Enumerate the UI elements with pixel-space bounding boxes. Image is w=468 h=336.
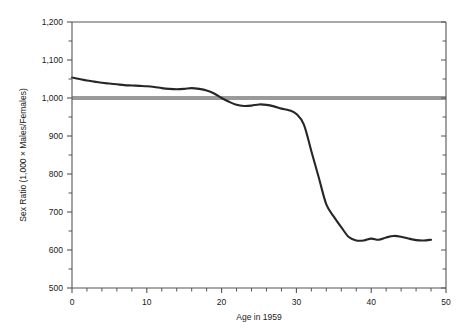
x-tick-label-40: 40 [366, 297, 376, 307]
x-tick-label-10: 10 [142, 297, 152, 307]
y-tick-label-800: 800 [49, 169, 63, 179]
figure-container: 5006007008009001,0001,1001,2000102030405… [0, 0, 468, 336]
y-tick-label-1100: 1,100 [42, 55, 64, 65]
y-tick-label-1000: 1,000 [42, 93, 64, 103]
y-tick-label-500: 500 [49, 283, 63, 293]
plot-area-background [72, 22, 446, 288]
x-tick-label-20: 20 [217, 297, 227, 307]
y-tick-label-700: 700 [49, 207, 63, 217]
y-tick-label-600: 600 [49, 245, 63, 255]
x-tick-label-0: 0 [70, 297, 75, 307]
y-tick-label-900: 900 [49, 131, 63, 141]
x-tick-label-30: 30 [292, 297, 302, 307]
x-axis-title: Age in 1959 [236, 312, 282, 322]
y-tick-label-1200: 1,200 [42, 17, 64, 27]
sex-ratio-line-chart: 5006007008009001,0001,1001,2000102030405… [0, 0, 468, 336]
y-axis-title: Sex Ratio (1,000 × Males/Females) [18, 88, 28, 222]
x-tick-label-50: 50 [441, 297, 451, 307]
